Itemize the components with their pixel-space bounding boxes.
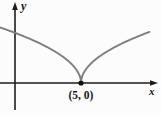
- cusp-curve: [1, 28, 150, 80]
- y-axis-arrowhead-icon: [12, 2, 18, 10]
- cusp-point-label: (5, 0): [58, 89, 104, 103]
- x-axis-label: x: [149, 86, 155, 97]
- y-axis-label: y: [21, 0, 26, 12]
- cusp-point-dot: [78, 80, 83, 85]
- cusp-function-plot: y x (5, 0): [0, 0, 161, 115]
